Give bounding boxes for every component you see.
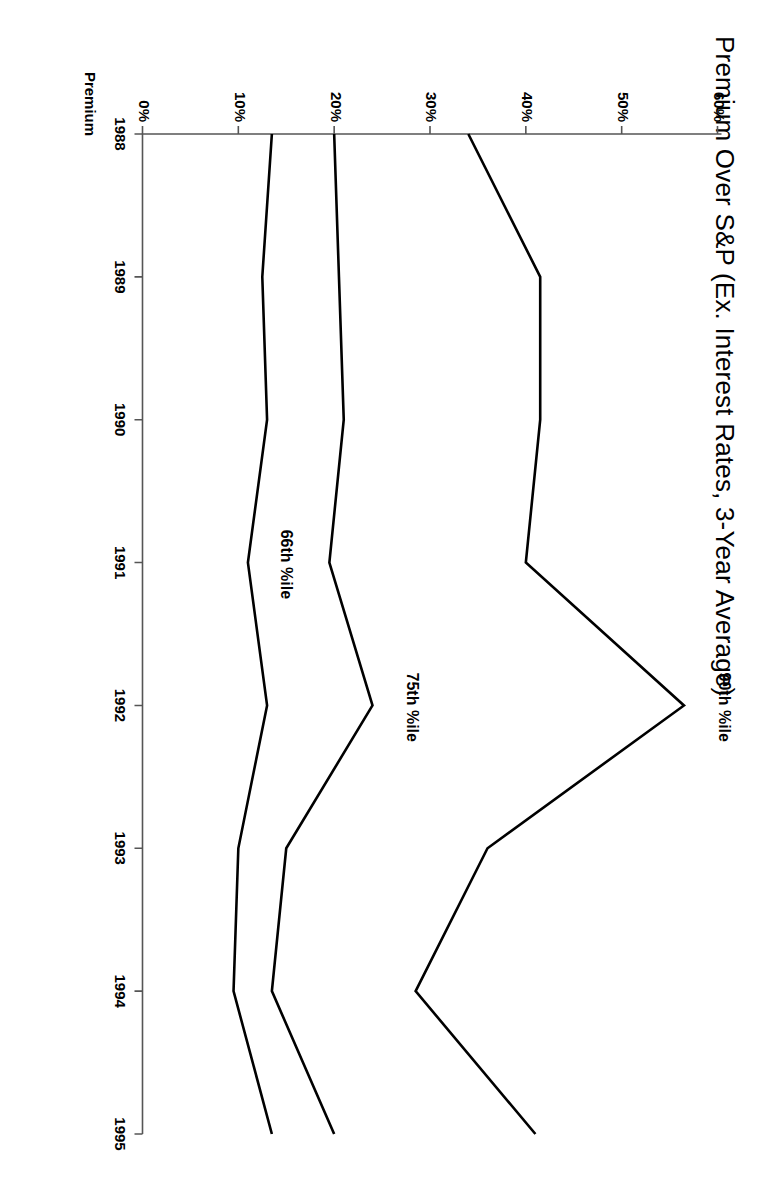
x-tick-label: 1989 [111,255,128,299]
plot-area [0,0,757,1202]
x-tick-label: 1991 [111,541,128,585]
series-label-2: 66th %ile [276,530,294,599]
y-tick-label: 10% [231,66,248,122]
x-tick-label: 1993 [111,826,128,870]
x-tick-label: 1994 [111,969,128,1013]
series-label-1: 75th %ile [402,673,420,742]
y-tick-label: 30% [423,66,440,122]
y-axis-title: Premium [81,0,98,224]
y-tick-label: 60% [710,66,727,122]
x-tick-label: 1992 [111,683,128,727]
y-tick-label: 40% [518,66,535,122]
y-tick-label: 20% [327,66,344,122]
y-tick-label: 0% [135,66,152,122]
plot-svg [0,0,757,1202]
x-tick-label: 1990 [111,398,128,442]
chart-figure: Premium Over S&P (Ex. Interest Rates, 3-… [0,0,757,1202]
x-tick-label: 1995 [111,1112,128,1156]
y-tick-label: 50% [614,66,631,122]
series-label-0: 90th %ile [714,673,732,742]
x-tick-label: 1988 [111,112,128,156]
